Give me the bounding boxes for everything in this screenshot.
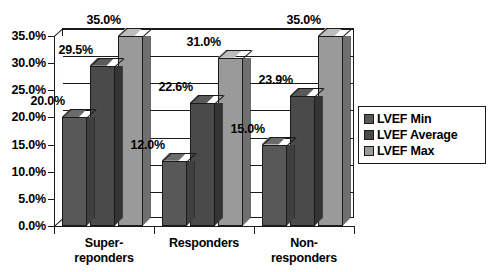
legend-item: LVEF Min [364, 111, 478, 127]
bar-top-back-edge [126, 28, 151, 29]
gridline [63, 29, 353, 30]
bar-front-face [262, 145, 287, 226]
legend-label: LVEF Average [377, 129, 458, 142]
legend-swatch [364, 114, 374, 124]
legend-label: LVEF Max [377, 145, 434, 158]
bar-top-back-edge [170, 153, 195, 154]
bar-side-face [243, 58, 251, 226]
legend-label: LVEF Min [377, 113, 431, 126]
data-label: 12.0% [131, 139, 165, 152]
bar-side-face [287, 145, 295, 226]
bar-top-back-edge [198, 95, 223, 96]
y-axis-tick-label: 10.0% [0, 165, 46, 178]
bar-lvef-min [62, 117, 87, 226]
chart-legend: LVEF MinLVEF AverageLVEF Max [358, 106, 486, 164]
data-label: 29.5% [59, 44, 93, 57]
x-axis-tick [354, 227, 355, 234]
x-axis-category-label: Non- responders [240, 236, 368, 266]
bar-front-face [162, 161, 187, 226]
bar-lvef-min [162, 161, 187, 226]
data-label: 15.0% [231, 123, 265, 136]
y-axis-line [54, 36, 55, 226]
bar-side-face [315, 96, 323, 226]
data-label: 31.0% [187, 36, 221, 49]
bar-lvef-min [262, 145, 287, 226]
y-axis-tick-label: 30.0% [0, 57, 46, 70]
bar-side-face [143, 36, 151, 226]
legend-item: LVEF Average [364, 127, 478, 143]
y-axis-tick-label: 15.0% [0, 138, 46, 151]
bar-front-face [62, 117, 87, 226]
data-label: 23.9% [259, 74, 293, 87]
data-label: 35.0% [87, 14, 121, 27]
x-axis-line [54, 226, 355, 227]
bar-side-face [187, 161, 195, 226]
legend-swatch [364, 130, 374, 140]
bar-top-back-edge [98, 58, 123, 59]
bar-side-face [115, 66, 123, 226]
data-label: 20.0% [31, 95, 65, 108]
bar-top-back-edge [226, 50, 251, 51]
bar-side-face [343, 36, 351, 226]
bar-top-back-edge [70, 109, 95, 110]
lvef-grouped-bar-chart: 35.0%30.0%25.0%20.0%15.0%10.0%5.0%0.0% 2… [0, 0, 492, 272]
data-label: 35.0% [287, 14, 321, 27]
y-axis-tick-label: 20.0% [0, 111, 46, 124]
x-axis-tick [154, 227, 155, 234]
bar-top-back-edge [326, 28, 351, 29]
y-axis-tick-label: 5.0% [0, 193, 46, 206]
y-axis-tick-label: 0.0% [0, 220, 46, 233]
data-label: 22.6% [159, 81, 193, 94]
bar-side-face [87, 117, 95, 226]
y-axis-tick-label: 35.0% [0, 30, 46, 43]
legend-item: LVEF Max [364, 143, 478, 159]
x-axis-tick [254, 227, 255, 234]
bar-top-back-edge [298, 88, 323, 89]
bar-side-face [215, 103, 223, 226]
x-axis-tick [54, 227, 55, 234]
legend-swatch [364, 146, 374, 156]
bar-top-back-edge [270, 137, 295, 138]
